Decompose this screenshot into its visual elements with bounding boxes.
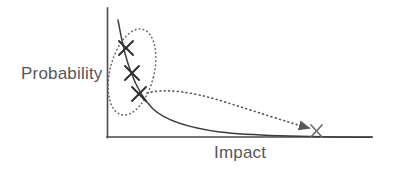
diagram-canvas bbox=[0, 0, 403, 173]
risk-curve-path bbox=[118, 20, 372, 137]
axes-group bbox=[107, 8, 372, 138]
risk-marker-1 bbox=[119, 41, 133, 55]
mitigation-arrow-path bbox=[147, 91, 309, 128]
x-axis-label: Impact bbox=[214, 143, 266, 163]
residual-risk-marker bbox=[311, 125, 322, 137]
risk-marker-2 bbox=[125, 66, 139, 80]
y-axis-label: Probability bbox=[21, 64, 103, 84]
risk-curve-diagram: Probability Impact bbox=[0, 0, 403, 173]
